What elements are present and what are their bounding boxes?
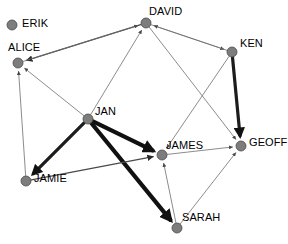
- node-james[interactable]: [157, 150, 167, 160]
- node-sarah[interactable]: [172, 223, 182, 233]
- node-david[interactable]: [141, 18, 151, 28]
- node-label-alice: ALICE: [8, 42, 40, 53]
- node-jan[interactable]: [83, 114, 93, 124]
- edge-jan-to-jamie: [33, 123, 84, 174]
- edge-david-to-geoff: [149, 27, 235, 139]
- edge-ken-to-james: [167, 57, 229, 148]
- nodes-layer: [7, 18, 246, 233]
- node-label-geoff: GEOFF: [249, 137, 287, 148]
- edge-jamie-to-alice: [19, 71, 26, 175]
- edges-layer: [19, 25, 240, 224]
- edge-jan-to-david: [91, 30, 142, 114]
- network-diagram: ERIKALICEDAVIDKENJANJAMESGEOFFSARAHJAMIE: [0, 0, 288, 244]
- node-geoff[interactable]: [236, 141, 246, 151]
- node-label-sarah: SARAH: [182, 212, 220, 223]
- node-ken[interactable]: [227, 47, 237, 57]
- node-label-jan: JAN: [95, 106, 116, 117]
- node-label-erik: ERIK: [22, 18, 48, 29]
- node-label-david: DAVID: [149, 6, 182, 17]
- edge-jan-to-alice: [25, 68, 84, 115]
- node-label-jamie: JAMIE: [34, 173, 67, 184]
- node-erik[interactable]: [7, 20, 17, 30]
- node-alice[interactable]: [13, 58, 23, 68]
- edge-alice-to-david: [23, 26, 138, 62]
- edge-ken-to-geoff: [233, 57, 240, 135]
- node-jamie[interactable]: [21, 176, 31, 186]
- edge-ken-to-david: [154, 26, 227, 51]
- node-label-ken: KEN: [240, 38, 263, 49]
- node-label-james: JAMES: [166, 140, 203, 151]
